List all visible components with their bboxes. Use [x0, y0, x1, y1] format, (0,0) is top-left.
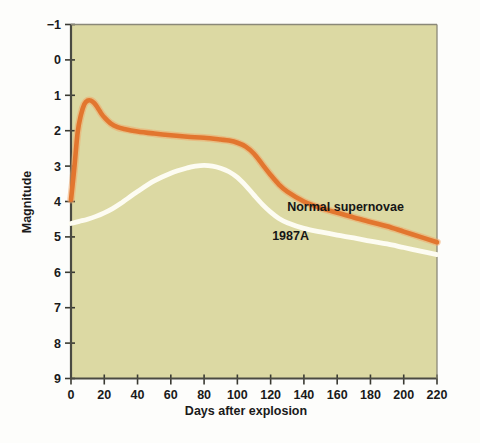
- y-axis-title: Magnitude: [20, 171, 34, 234]
- x-tick-label: 160: [327, 388, 348, 402]
- supernova-lightcurve-figure: −101234567890204060801001201401601802002…: [0, 0, 480, 443]
- y-tick-label: 7: [54, 301, 61, 315]
- x-tick-label: 220: [427, 388, 448, 402]
- x-tick-label: 0: [68, 388, 75, 402]
- x-tick-label: 180: [360, 388, 381, 402]
- x-tick-label: 200: [393, 388, 414, 402]
- y-tick-label: 8: [54, 337, 61, 351]
- x-tick-label: 100: [227, 388, 248, 402]
- x-tick-label: 40: [131, 388, 145, 402]
- series-annotation: 1987A: [272, 229, 309, 243]
- y-tick-label: 9: [54, 372, 61, 386]
- x-tick-label: 140: [293, 388, 314, 402]
- x-tick-label: 20: [97, 388, 111, 402]
- y-tick-label: 5: [54, 230, 61, 244]
- y-tick-label: 2: [54, 124, 61, 138]
- x-tick-label: 80: [197, 388, 211, 402]
- y-tick-label: 0: [54, 53, 61, 67]
- y-tick-label: 1: [54, 89, 61, 103]
- series-annotation: Normal supernovae: [287, 200, 404, 214]
- x-tick-label: 120: [260, 388, 281, 402]
- y-tick-label: 4: [54, 195, 61, 209]
- y-tick-label: −1: [47, 18, 61, 32]
- y-tick-label: 3: [54, 160, 61, 174]
- light-curve-chart: −101234567890204060801001201401601802002…: [0, 0, 480, 443]
- x-axis-title: Days after explosion: [185, 404, 307, 418]
- y-tick-label: 6: [54, 266, 61, 280]
- x-tick-label: 60: [164, 388, 178, 402]
